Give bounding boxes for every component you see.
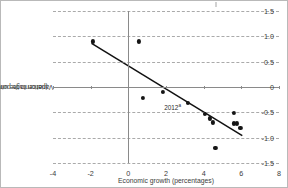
x-axis-tick-mark <box>91 86 92 89</box>
y-axis-tick-label: -1.5 <box>262 159 274 168</box>
data-point-annotation: 2012a <box>164 103 181 111</box>
gridline-horizontal <box>53 163 279 164</box>
plot-area: -1.5-1.0-0.500.51.01.5-4-2024682012a <box>53 11 279 163</box>
y-axis-tick-label: 1.5 <box>264 7 274 16</box>
y-axis-tick-label: 1.0 <box>264 32 274 41</box>
x-axis-tick-mark <box>166 86 167 89</box>
gridline-horizontal <box>53 138 279 139</box>
trendline <box>92 43 243 135</box>
y-axis-tick-label: 0 <box>270 83 274 92</box>
y-axis-tick-label: -0.5 <box>262 108 274 117</box>
y-axis-tick-label: 0.5 <box>264 57 274 66</box>
gridline-horizontal <box>53 62 279 63</box>
x-axis-tick-mark <box>279 86 280 89</box>
x-axis-tick-mark <box>128 86 129 89</box>
chart-figure: Variation in the unemployment rate (perc… <box>0 0 288 188</box>
annotation-superscript: a <box>178 103 181 108</box>
x-axis-title: Economic growth (percentages) <box>53 177 279 184</box>
gridline-horizontal <box>53 36 279 37</box>
crop-artifact-mark <box>215 2 217 7</box>
x-axis-tick-mark <box>241 86 242 89</box>
annotation-label: 2012 <box>164 104 178 111</box>
gridline-horizontal <box>53 112 279 113</box>
x-axis-tick-mark <box>204 86 205 89</box>
x-axis-tick-mark <box>53 86 54 89</box>
gridline-horizontal <box>53 11 279 12</box>
y-axis-title: Variation in the unemployment rate (perc… <box>3 11 19 163</box>
y-axis-tick-label: -1.0 <box>262 133 274 142</box>
